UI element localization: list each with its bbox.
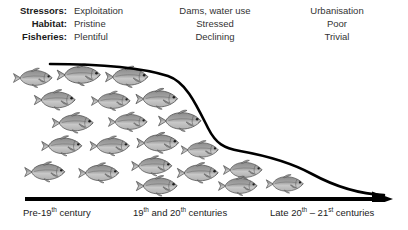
fish-decline-diagram (0, 52, 408, 202)
row-key-fisheries: Fisheries: (4, 30, 67, 43)
axis-label-1-post: centuries (186, 207, 227, 218)
fish-icon (219, 176, 258, 195)
fish-school (14, 64, 304, 196)
row-value-stressors-mid: Dams, water use (155, 4, 275, 17)
fish-icon (79, 163, 119, 183)
row-value-habitat-late: Poor (282, 17, 392, 30)
figure-root: Stressors: Exploitation Habitat: Pristin… (0, 0, 408, 230)
fish-icon (132, 156, 172, 176)
fish-icon (90, 136, 129, 156)
stressor-summary-table: Stressors: Exploitation Habitat: Pristin… (0, 4, 408, 50)
axis-period-labels: Pre-19th century 19th and 20th centuries… (0, 207, 408, 225)
label-column-right: Urbanisation Poor Trivial (282, 4, 392, 43)
table-row: Stressors: Exploitation (4, 4, 154, 17)
row-value-fisheries-mid: Declining (155, 30, 275, 43)
axis-label-1-pre: 19 (133, 207, 144, 218)
row-value-stressors-early: Exploitation (67, 4, 123, 17)
row-key-stressors: Stressors: (4, 4, 67, 17)
table-row: Habitat: Pristine (4, 17, 154, 30)
axis-label-0-post: century (57, 207, 91, 218)
row-value-fisheries-late: Trivial (282, 30, 392, 43)
fish-icon (266, 175, 303, 194)
fish-icon (136, 88, 178, 109)
fish-icon (42, 136, 82, 156)
label-column-middle: Dams, water use Stressed Declining (155, 4, 275, 43)
axis-label-19th-20th: 19th and 20th centuries (133, 207, 227, 219)
fish-icon (136, 176, 177, 197)
row-value-fisheries-early: Plentiful (67, 30, 108, 43)
fish-icon (181, 141, 218, 160)
fish-icon (92, 91, 131, 110)
diagram-canvas (0, 52, 408, 202)
table-row: Fisheries: Plentiful (4, 30, 154, 43)
row-key-habitat: Habitat: (4, 17, 67, 30)
fish-icon (25, 162, 65, 182)
row-value-habitat-early: Pristine (67, 17, 106, 30)
axis-label-2-pre: Late 20 (270, 207, 302, 218)
fish-icon (159, 110, 201, 131)
fish-icon (137, 132, 179, 153)
time-axis-arrow (25, 191, 393, 202)
fish-icon (109, 112, 148, 131)
axis-label-1-mid: and 20 (149, 207, 181, 218)
fish-icon (177, 163, 218, 184)
arrowhead-icon (372, 191, 393, 202)
row-value-habitat-mid: Stressed (155, 17, 275, 30)
fish-icon (14, 68, 53, 87)
axis-label-2-mid: – 21 (307, 207, 328, 218)
fish-icon (57, 64, 100, 86)
fish-icon (34, 90, 75, 111)
axis-label-2-post: centuries (333, 207, 374, 218)
axis-label-0-pre: Pre-19 (23, 207, 52, 218)
label-column-left: Stressors: Exploitation Habitat: Pristin… (4, 4, 154, 43)
fish-icon (52, 113, 93, 134)
row-value-stressors-late: Urbanisation (282, 4, 392, 17)
axis-label-late-20th-21st: Late 20th – 21st centuries (270, 207, 374, 219)
axis-label-pre-19th: Pre-19th century (23, 207, 91, 219)
